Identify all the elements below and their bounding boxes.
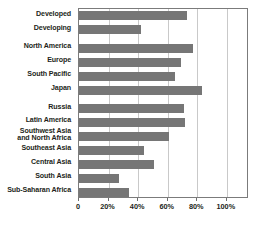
bar (79, 146, 144, 155)
category-label: Latin America (0, 117, 71, 124)
category-label: Russia (0, 104, 71, 111)
tick-label: 0 (76, 202, 80, 211)
tick-mark (226, 198, 227, 201)
category-label: Developed (0, 11, 71, 18)
plot-area (78, 8, 248, 198)
category-label: North America (0, 43, 71, 50)
bar (79, 25, 141, 34)
tick-label: 20% (100, 202, 115, 211)
tick-mark (108, 198, 109, 201)
bar (79, 86, 202, 95)
bar (79, 160, 154, 169)
category-axis: DevelopedDevelopingNorth AmericaEuropeSo… (0, 8, 74, 198)
bar (79, 72, 175, 81)
category-label: South Asia (0, 173, 71, 180)
bars-layer (79, 9, 247, 197)
tick-mark (78, 198, 79, 201)
bar (79, 44, 193, 53)
category-label: Southeast Asia (0, 145, 71, 152)
tick-mark (137, 198, 138, 201)
value-axis: 020%40%60%80%100% (78, 198, 248, 222)
bar-chart: DevelopedDevelopingNorth AmericaEuropeSo… (0, 0, 257, 225)
category-label: Europe (0, 57, 71, 64)
bar (79, 118, 185, 127)
bar (79, 174, 119, 183)
tick-label: 100% (216, 202, 235, 211)
tick-label: 80% (189, 202, 204, 211)
bar (79, 132, 169, 141)
category-label: Sub-Saharan Africa (0, 187, 71, 194)
category-label: Developing (0, 25, 71, 32)
bar (79, 11, 187, 20)
category-label: Central Asia (0, 159, 71, 166)
tick-mark (196, 198, 197, 201)
tick-label: 60% (159, 202, 174, 211)
category-label: Southwest Asia and North Africa (0, 128, 71, 143)
category-label: South Pacific (0, 71, 71, 78)
tick-label: 40% (130, 202, 145, 211)
bar (79, 188, 129, 197)
tick-mark (167, 198, 168, 201)
bar (79, 104, 184, 113)
bar (79, 58, 181, 67)
category-label: Japan (0, 85, 71, 92)
